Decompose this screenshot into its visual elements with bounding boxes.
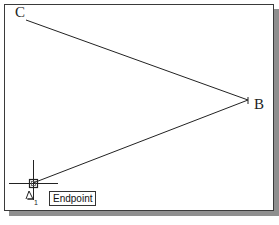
drawing-canvas[interactable]: [0, 0, 279, 225]
point-label-b: B: [254, 97, 264, 112]
ucs-icon: [26, 191, 34, 199]
osnap-endpoint-tooltip: Endpoint: [49, 191, 96, 206]
line-b-to-a[interactable]: [33, 100, 248, 183]
ucs-subscript: 1: [34, 199, 38, 206]
point-label-c: C: [15, 5, 25, 20]
line-c-to-b[interactable]: [26, 20, 248, 100]
